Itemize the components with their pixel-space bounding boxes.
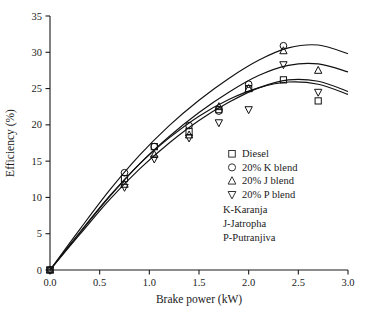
legend-label: Diesel [242, 148, 269, 159]
x-tick-label: 3.0 [341, 277, 354, 288]
data-point-diesel [315, 98, 321, 104]
x-axis: 0.00.51.01.52.02.53.0 [43, 270, 354, 288]
fit-curve-20-j-blend [50, 63, 348, 270]
legend-label: 20% K blend [242, 162, 298, 173]
fit-curve-20-k-blend [50, 45, 348, 270]
fit-curves [50, 45, 348, 270]
fit-curve-20-p-blend [50, 79, 348, 270]
efficiency-vs-brake-power-chart: 05101520253035 0.00.51.01.52.02.53.0 Die… [0, 0, 375, 311]
legend-label: 20% J blend [242, 175, 295, 186]
data-point-20-p-blend [315, 89, 322, 96]
y-tick-label: 10 [32, 192, 43, 203]
legend-note: J-Jatropha [223, 218, 266, 229]
data-point-20-k-blend [216, 108, 223, 115]
legend-label: 20% P blend [242, 189, 296, 200]
legend-marker-circle [228, 164, 235, 171]
x-tick-label: 2.5 [292, 277, 305, 288]
legend-marker-square [229, 151, 236, 158]
y-tick-label: 5 [37, 228, 42, 239]
legend-marker-triangle-down [228, 192, 236, 199]
legend-note: P-Putranjiva [223, 232, 276, 243]
legend-marker-triangle-up [228, 177, 236, 184]
y-tick-label: 30 [32, 47, 43, 58]
x-tick-label: 1.0 [143, 277, 156, 288]
data-point-20-p-blend [185, 135, 192, 142]
y-tick-label: 0 [37, 265, 42, 276]
legend-note: K-Karanja [223, 204, 268, 215]
y-tick-label: 15 [32, 156, 43, 167]
x-tick-label: 0.5 [93, 277, 106, 288]
x-tick-label: 1.5 [192, 277, 205, 288]
y-tick-label: 20 [32, 119, 43, 130]
legend: Diesel20% K blend20% J blend20% P blendK… [223, 148, 298, 243]
x-tick-label: 0.0 [43, 277, 56, 288]
y-tick-label: 35 [32, 11, 43, 22]
chart-canvas: 05101520253035 0.00.51.01.52.02.53.0 Die… [0, 0, 375, 311]
data-point-20-p-blend [245, 107, 252, 114]
fit-curve-diesel [50, 82, 348, 270]
data-point-20-p-blend [215, 120, 222, 127]
data-point-20-p-blend [121, 184, 128, 191]
axis-titles: Brake power (kW)Efficiency (%) [4, 109, 242, 306]
data-point-20-j-blend [315, 66, 322, 73]
x-tick-label: 2.0 [242, 277, 255, 288]
x-axis-title: Brake power (kW) [156, 293, 242, 306]
y-axis-title: Efficiency (%) [4, 109, 17, 177]
y-axis: 05101520253035 [32, 11, 51, 276]
data-markers [46, 42, 322, 274]
y-tick-label: 25 [32, 83, 43, 94]
